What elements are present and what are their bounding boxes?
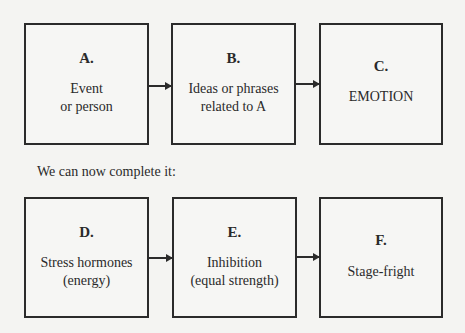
box-a-description: Event or person: [26, 80, 147, 116]
box-e-line-2: (equal strength): [174, 272, 295, 290]
box-f-stage-fright: F. Stage-fright: [319, 197, 443, 318]
box-f-letter: F.: [321, 232, 441, 249]
box-c-description: EMOTION: [321, 88, 441, 106]
arrow-b-to-c: [296, 83, 319, 85]
box-b-description: Ideas or phrases related to A: [173, 80, 294, 116]
box-f-line-1: Stage-fright: [321, 263, 441, 281]
box-e-line-1: Inhibition: [174, 254, 295, 272]
box-a-event-or-person: A. Event or person: [24, 23, 149, 145]
box-b-line-2: related to A: [173, 98, 294, 116]
caption-text: We can now complete it:: [37, 164, 176, 180]
box-d-stress-hormones: D. Stress hormones (energy): [24, 197, 149, 318]
box-d-description: Stress hormones (energy): [26, 254, 147, 290]
box-c-line-1: EMOTION: [321, 88, 441, 106]
box-a-line-2: or person: [26, 98, 147, 116]
box-d-letter: D.: [26, 224, 147, 241]
box-e-description: Inhibition (equal strength): [174, 254, 295, 290]
box-f-description: Stage-fright: [321, 263, 441, 281]
box-c-emotion: C. EMOTION: [319, 23, 443, 145]
box-b-ideas-or-phrases: B. Ideas or phrases related to A: [171, 23, 296, 145]
box-a-letter: A.: [26, 50, 147, 67]
box-c-letter: C.: [321, 58, 441, 75]
arrow-e-to-f: [297, 256, 319, 258]
arrow-d-to-e: [149, 257, 172, 259]
box-b-line-1: Ideas or phrases: [173, 80, 294, 98]
box-e-letter: E.: [174, 224, 295, 241]
box-e-inhibition: E. Inhibition (equal strength): [172, 197, 297, 318]
box-b-letter: B.: [173, 50, 294, 67]
box-d-line-1: Stress hormones: [26, 254, 147, 272]
box-d-line-2: (energy): [26, 272, 147, 290]
box-a-line-1: Event: [26, 80, 147, 98]
arrow-a-to-b: [149, 85, 171, 87]
